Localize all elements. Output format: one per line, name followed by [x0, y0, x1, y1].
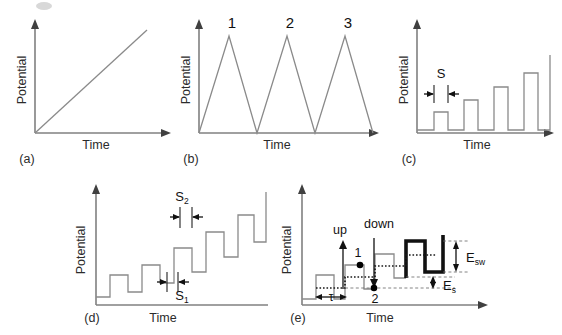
panel-c-y-axis-label: Potential — [397, 56, 411, 105]
panel-b-cyclic-voltammetry: 1 2 3 Potential Time (b) — [179, 14, 379, 166]
panel-d-y-axis-arrow — [92, 184, 100, 194]
panel-b-cycle-number-3: 3 — [344, 14, 352, 31]
panel-e-square-wave: up down 1 2 τ Esw Es Potential Time (e) — [280, 184, 488, 325]
panel-b-x-axis-arrow — [369, 129, 379, 137]
panel-a-x-axis-arrow — [161, 129, 171, 137]
panel-e-sample-point-1-label: 1 — [355, 246, 362, 260]
panel-e-sample-dot-2 — [371, 285, 378, 292]
panel-c-normal-pulse: S Potential Time (c) — [397, 19, 554, 166]
panel-c-pulse-width-label: S — [437, 66, 446, 81]
panel-d-s1-arrow-left-head — [160, 279, 167, 285]
panel-e-tau-label: τ — [329, 290, 334, 304]
panel-e-highlighted-cycle-trace — [406, 235, 443, 278]
panel-b-y-axis-arrow — [195, 19, 203, 29]
panel-e-sample-point-2-label: 2 — [372, 292, 379, 306]
panel-d-y-axis-label: Potential — [74, 226, 88, 275]
panel-e-x-axis-label: Time — [366, 311, 393, 325]
panel-d-s2-arrow-left-head — [173, 214, 180, 220]
panel-e-up-arrow-head — [339, 240, 347, 249]
panel-d-label: (d) — [84, 311, 99, 325]
panel-a-y-axis-arrow — [31, 19, 39, 29]
panel-e-es-label: Es — [443, 278, 456, 295]
panel-d-s2-label: S2 — [175, 189, 189, 206]
panel-b-cycle-number-1: 1 — [228, 14, 236, 31]
panel-b-x-axis-label: Time — [263, 138, 290, 152]
panel-a-linear-sweep: Potential Time (a) — [15, 19, 171, 166]
panel-e-esw-arrow-head-down — [453, 264, 459, 272]
panel-e-x-axis-arrow — [478, 301, 488, 309]
panel-e-up-label: up — [333, 223, 347, 237]
panel-d-s2-arrow-right-head — [192, 214, 199, 220]
panel-c-x-axis-label: Time — [463, 138, 490, 152]
panel-b-triangular-trace — [199, 36, 373, 133]
panel-a-x-axis-label: Time — [82, 138, 109, 152]
panel-d-x-axis-label: Time — [149, 311, 176, 325]
panel-c-label: (c) — [402, 152, 417, 166]
panel-e-esw-arrow-head-up — [453, 241, 459, 249]
panel-c-s-arrow-left-head — [427, 91, 434, 97]
panel-a-label: (a) — [19, 152, 34, 166]
panel-b-y-axis-label: Potential — [179, 56, 193, 105]
panel-c-s-arrow-right-head — [448, 91, 455, 97]
panel-e-esw-label: Esw — [466, 250, 486, 267]
panel-e-down-label: down — [364, 217, 394, 231]
panel-e-es-arrow-head-down — [430, 282, 436, 289]
panel-b-cycle-number-2: 2 — [286, 14, 294, 31]
panel-e-y-axis-label: Potential — [280, 226, 294, 275]
panel-b-label: (b) — [183, 152, 198, 166]
panel-e-y-axis-arrow — [298, 184, 306, 194]
panel-d-differential-pulse: S2 S1 Potential Time (d) — [74, 184, 268, 325]
voltammetry-waveform-figure: Potential Time (a) 1 2 3 Potential Time … — [0, 0, 562, 335]
panel-a-ramp-trace — [35, 30, 147, 133]
panel-a-y-axis-label: Potential — [15, 56, 29, 105]
panel-e-sample-dot-1 — [357, 262, 364, 269]
panel-c-y-axis-arrow — [413, 19, 421, 29]
scan-artifact — [36, 2, 52, 10]
panel-d-s1-label: S1 — [175, 288, 189, 305]
panel-d-s1-arrow-right-head — [178, 279, 185, 285]
panel-e-label: (e) — [290, 311, 305, 325]
